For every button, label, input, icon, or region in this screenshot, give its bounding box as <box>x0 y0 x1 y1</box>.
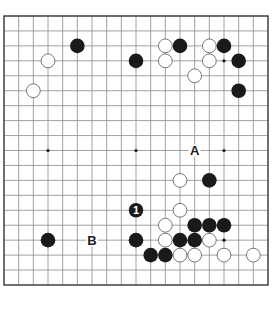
black-stone <box>70 39 85 54</box>
black-stone <box>173 233 188 248</box>
star-point <box>46 149 49 152</box>
black-stone <box>202 218 217 233</box>
star-point <box>222 149 225 152</box>
black-stone <box>129 54 144 69</box>
white-stone <box>188 69 202 83</box>
star-point <box>134 149 137 152</box>
move-number: 1 <box>133 204 139 216</box>
black-stone <box>143 248 158 263</box>
white-stone <box>202 233 216 247</box>
star-point <box>222 239 225 242</box>
white-stone <box>173 248 187 262</box>
white-stone <box>173 173 187 187</box>
black-stone <box>129 233 144 248</box>
point-label-a: A <box>190 143 200 158</box>
white-stone <box>158 218 172 232</box>
black-stone <box>187 218 202 233</box>
point-label-b: B <box>87 233 96 248</box>
star-point <box>222 59 225 62</box>
white-stone <box>158 39 172 53</box>
white-stone <box>202 54 216 68</box>
black-stone <box>41 233 56 248</box>
white-stone <box>41 54 55 68</box>
black-stone: 1 <box>129 203 144 218</box>
white-stone <box>202 39 216 53</box>
white-stone <box>173 203 187 217</box>
black-stone <box>173 39 188 54</box>
white-stone <box>188 248 202 262</box>
white-stone <box>158 54 172 68</box>
black-stone <box>187 233 202 248</box>
black-stone <box>231 83 246 98</box>
black-stone <box>231 54 246 69</box>
go-board-diagram: AB 1 <box>0 0 278 311</box>
black-stone <box>217 39 232 54</box>
white-stone <box>246 248 260 262</box>
white-stone <box>26 84 40 98</box>
white-stone <box>217 248 231 262</box>
white-stone <box>158 233 172 247</box>
black-stone <box>202 173 217 188</box>
black-stone <box>217 218 232 233</box>
go-board: AB 1 <box>0 0 278 311</box>
black-stone <box>158 248 173 263</box>
